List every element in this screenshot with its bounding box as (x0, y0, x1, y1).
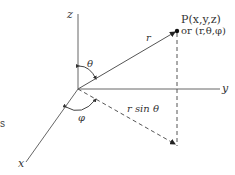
z-axis-label: z (67, 9, 73, 20)
point-p (175, 29, 179, 33)
r-sin-theta-label: r sin θ (127, 104, 159, 114)
y-axis-label: y (222, 83, 228, 94)
phi-label: φ (78, 113, 85, 123)
theta-label: θ (87, 59, 93, 69)
point-label-cartesian: P(x,y,z) (181, 14, 221, 25)
x-axis-label: x (18, 158, 24, 169)
phi-arc (66, 99, 96, 111)
edge-text-fragment: s (0, 118, 5, 129)
point-label-spherical: or (r,θ,φ) (181, 26, 226, 36)
spherical-coordinates-diagram: z y x P(x,y,z) or (r,θ,φ) r θ φ r sin θ … (0, 0, 235, 175)
radius-label: r (146, 33, 151, 43)
x-axis (26, 89, 78, 162)
r-sin-theta-vector (78, 89, 175, 144)
